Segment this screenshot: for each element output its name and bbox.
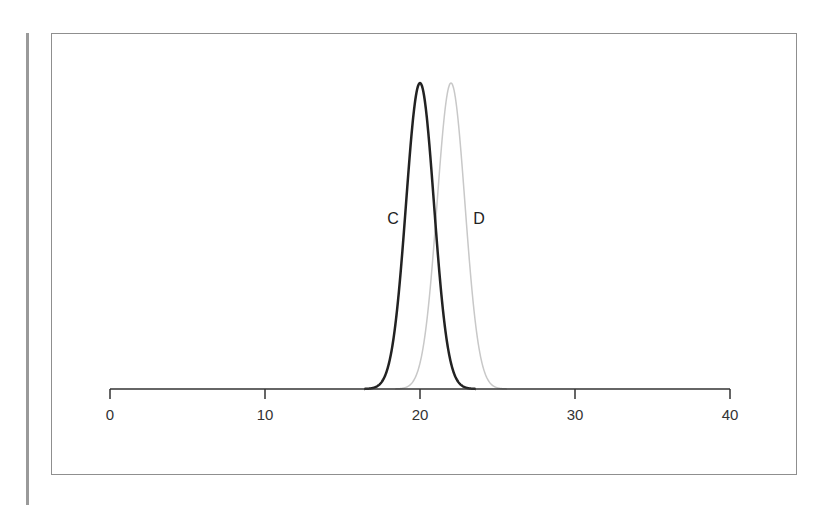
tick-label-0: 0 <box>106 406 114 423</box>
tick-label-40: 40 <box>722 406 739 423</box>
curve-label-c: C <box>387 210 399 227</box>
distribution-chart: 0 10 20 30 40 C D <box>0 0 824 505</box>
curve-label-d: D <box>473 210 485 227</box>
x-ticks <box>110 389 730 399</box>
tick-label-30: 30 <box>567 406 584 423</box>
tick-label-10: 10 <box>257 406 274 423</box>
tick-label-20: 20 <box>412 406 429 423</box>
curves <box>364 83 507 389</box>
